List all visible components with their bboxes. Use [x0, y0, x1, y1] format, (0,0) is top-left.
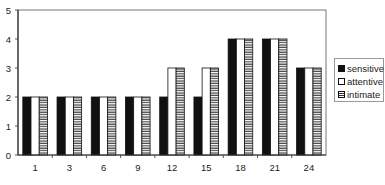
bar-intimate [142, 97, 150, 155]
bar-sensitive [23, 97, 31, 155]
legend-item-intimate: intimate [338, 88, 380, 100]
bar-sensitive [262, 39, 270, 155]
bar-attentive [168, 68, 176, 155]
bar-attentive [305, 68, 313, 155]
legend-label: sensitive [347, 63, 384, 74]
x-tick-label: 1 [32, 162, 37, 173]
y-tick-label: 4 [6, 34, 11, 45]
bar-sensitive [297, 68, 305, 155]
y-tick-label: 2 [6, 92, 11, 103]
bar-sensitive [228, 39, 236, 155]
x-tick-label: 24 [304, 162, 315, 173]
plot-area: 01234513691215182124 [6, 5, 326, 174]
bar-intimate [279, 39, 287, 155]
y-tick-label: 0 [6, 150, 11, 161]
bar-intimate [176, 68, 184, 155]
legend-swatch-intimate-icon [338, 91, 345, 98]
bar-attentive [271, 39, 279, 155]
bar-attentive [31, 97, 39, 155]
bar-sensitive [194, 97, 202, 155]
x-tick-label: 15 [201, 162, 212, 173]
bar-sensitive [91, 97, 99, 155]
bar-intimate [108, 97, 116, 155]
y-tick-label: 5 [6, 5, 11, 16]
bar-attentive [65, 97, 73, 155]
x-tick-label: 21 [269, 162, 280, 173]
bar-attentive [236, 39, 244, 155]
legend-swatch-attentive-icon [338, 78, 345, 85]
bar-intimate [313, 68, 321, 155]
bar-sensitive [160, 97, 168, 155]
bar-intimate [210, 68, 218, 155]
bar-sensitive [57, 97, 65, 155]
x-tick-label: 9 [135, 162, 140, 173]
x-tick-label: 6 [101, 162, 106, 173]
legend-label: attentive [347, 76, 383, 87]
bar-sensitive [125, 97, 133, 155]
bar-chart: 01234513691215182124 [0, 0, 385, 185]
y-tick-label: 3 [6, 63, 11, 74]
x-tick-label: 3 [67, 162, 72, 173]
legend-label: intimate [347, 89, 380, 100]
legend: sensitive attentive intimate [334, 58, 384, 102]
bar-intimate [73, 97, 81, 155]
bar-attentive [99, 97, 107, 155]
legend-item-attentive: attentive [338, 75, 383, 87]
legend-swatch-sensitive-icon [338, 65, 345, 72]
bar-intimate [245, 39, 253, 155]
x-tick-label: 18 [235, 162, 246, 173]
bar-attentive [202, 68, 210, 155]
x-tick-label: 12 [167, 162, 178, 173]
y-tick-label: 1 [6, 121, 11, 132]
legend-item-sensitive: sensitive [338, 62, 384, 74]
bar-attentive [134, 97, 142, 155]
bar-intimate [39, 97, 47, 155]
